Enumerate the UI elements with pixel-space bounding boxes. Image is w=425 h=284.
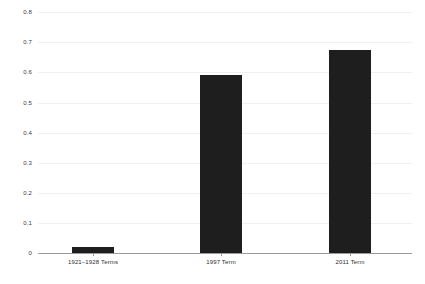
ytick-label-0.1: 0.1 — [23, 220, 32, 226]
xtick-label-2011-term: 2011 Term — [290, 259, 410, 265]
ytick-label-0: 0 — [29, 250, 32, 256]
ytick-label-0.6: 0.6 — [23, 69, 32, 75]
ytick-label-0.3: 0.3 — [23, 160, 32, 166]
x-axis-line — [38, 253, 412, 254]
xtick-label-1921-1928-terms: 1921–1928 Terms — [33, 259, 153, 265]
bar-2011-term — [329, 50, 371, 253]
xtick-label-1997-term: 1997 Term — [161, 259, 281, 265]
ytick-label-0.5: 0.5 — [23, 100, 32, 106]
gridline-0.8 — [38, 12, 412, 13]
gridline-0.7 — [38, 42, 412, 43]
xtick-mark-2 — [221, 253, 222, 256]
bar-1997-term — [200, 75, 242, 253]
xtick-mark-3 — [350, 253, 351, 256]
plot-area — [38, 12, 412, 253]
xtick-mark-1 — [93, 253, 94, 256]
bar-chart: 0.8 0.7 0.6 0.5 0.4 0.3 0.2 0.1 0 1921–1… — [0, 0, 425, 284]
ytick-label-0.2: 0.2 — [23, 190, 32, 196]
ytick-label-0.7: 0.7 — [23, 39, 32, 45]
ytick-label-0.8: 0.8 — [23, 9, 32, 15]
ytick-label-0.4: 0.4 — [23, 130, 32, 136]
